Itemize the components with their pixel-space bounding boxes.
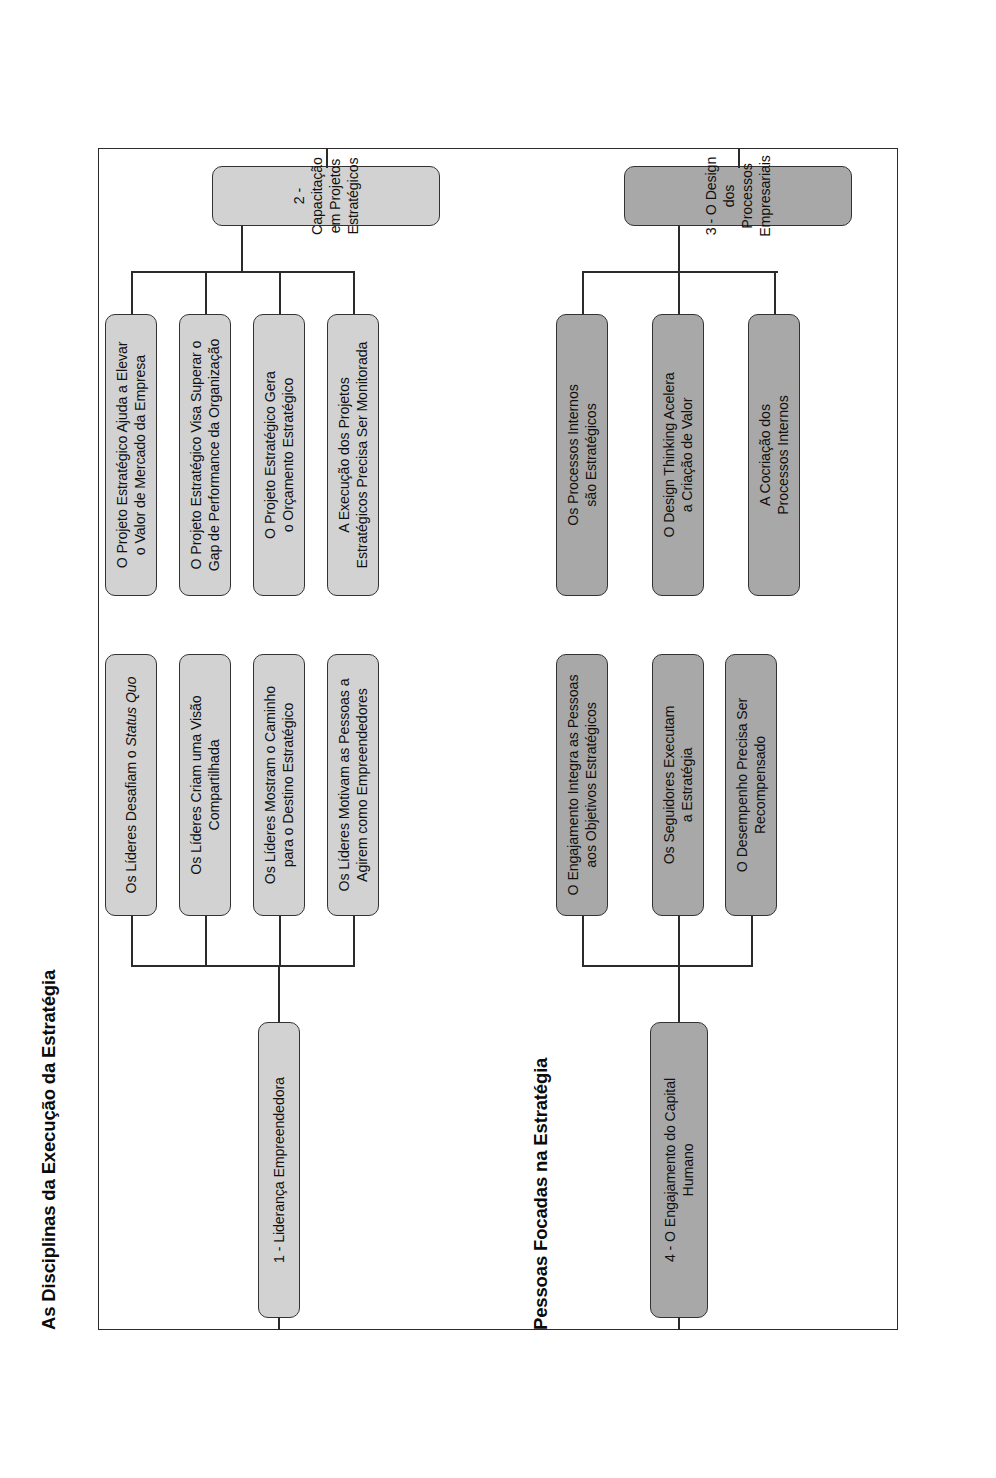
section-title-pessoas: Pessoas Focadas na Estratégia <box>530 1058 552 1330</box>
connector-projetos-2 <box>205 271 207 314</box>
node-processos-child-3[interactable]: A Cocriação dos Processos Internos <box>748 314 800 596</box>
node-processos-child-2[interactable]: O Design Thinking Acelera a Criação de V… <box>652 314 704 596</box>
node-lideranca-child-3-label: Os Líderes Mostram o Caminho para o Dest… <box>261 686 297 884</box>
node-lideranca-child-4-label: Os Líderes Motivam as Pessoas a Agirem c… <box>335 679 371 892</box>
connector-projetos-4 <box>353 271 355 314</box>
node-processos-child-1-label: Os Processos Internos são Estratégicos <box>564 384 600 525</box>
node-projetos-child-2-label: O Projeto Estratégico Visa Superar o Gap… <box>187 339 223 572</box>
connector-root1-stem <box>278 966 280 1022</box>
node-root-2-capacitacao[interactable]: 2 - Capacitação em Projetos Estratégicos <box>212 166 440 226</box>
connector-engajamento-1 <box>582 915 584 967</box>
node-lideranca-child-2[interactable]: Os Líderes Criam uma Visão Compartilhada <box>179 654 231 916</box>
connector-frame-root1 <box>278 1317 280 1329</box>
connector-lideranca-bus <box>131 965 355 967</box>
node-projetos-child-1[interactable]: O Projeto Estratégico Ajuda a Elevar o V… <box>105 314 157 596</box>
connector-frame-root3 <box>738 148 740 168</box>
node-projetos-child-4[interactable]: A Execução dos Projetos Estratégicos Pre… <box>327 314 379 596</box>
connector-engajamento-bus <box>582 965 752 967</box>
node-root-2-label: 2 - Capacitação em Projetos Estratégicos <box>290 157 363 235</box>
connector-processos-3 <box>774 271 776 314</box>
node-engajamento-child-3-label: O Desempenho Precisa Ser Recompensado <box>733 698 769 872</box>
node-root-1-label: 1 - Liderança Empreendedora <box>270 1077 288 1263</box>
connector-lideranca-2 <box>205 915 207 967</box>
connector-engajamento-3 <box>751 915 753 967</box>
connector-projetos-1 <box>131 271 133 314</box>
connector-frame-root4 <box>678 1317 680 1329</box>
node-projetos-child-4-label: A Execução dos Projetos Estratégicos Pre… <box>335 342 371 569</box>
connector-root3-stem <box>678 225 680 273</box>
node-root-4-engajamento[interactable]: 4 - O Engajamento do Capital Humano <box>650 1022 708 1318</box>
node-projetos-child-2[interactable]: O Projeto Estratégico Visa Superar o Gap… <box>179 314 231 596</box>
node-processos-child-3-label: A Cocriação dos Processos Internos <box>756 395 792 515</box>
rotated-diagram-group: As Disciplinas da Execução da Estratégia… <box>0 0 996 1478</box>
node-processos-child-1[interactable]: Os Processos Internos são Estratégicos <box>556 314 608 596</box>
node-lideranca-child-4[interactable]: Os Líderes Motivam as Pessoas a Agirem c… <box>327 654 379 916</box>
connector-processos-1 <box>582 271 584 314</box>
connector-lideranca-3 <box>279 915 281 967</box>
node-lideranca-child-3[interactable]: Os Líderes Mostram o Caminho para o Dest… <box>253 654 305 916</box>
connector-projetos-bus <box>131 271 355 273</box>
node-projetos-child-3-label: O Projeto Estratégico Gera o Orçamento E… <box>261 371 297 539</box>
connector-processos-bus <box>582 271 778 273</box>
node-engajamento-child-1-label: O Engajamento Integra as Pessoas aos Obj… <box>564 675 600 896</box>
node-projetos-child-3[interactable]: O Projeto Estratégico Gera o Orçamento E… <box>253 314 305 596</box>
connector-frame-root2 <box>326 148 328 168</box>
connector-lideranca-4 <box>353 915 355 967</box>
node-lideranca-child-1[interactable]: Os Líderes Desafiam o Status Quo <box>105 654 157 916</box>
node-engajamento-child-1[interactable]: O Engajamento Integra as Pessoas aos Obj… <box>556 654 608 916</box>
node-lideranca-child-2-label: Os Líderes Criam uma Visão Compartilhada <box>187 695 223 874</box>
node-lideranca-child-1-label: Os Líderes Desafiam o Status Quo <box>122 677 140 894</box>
connector-lideranca-1 <box>131 915 133 967</box>
node-root-3-design-processos[interactable]: 3 - O Design dos Processos Empresariais <box>624 166 852 226</box>
connector-processos-2 <box>678 271 680 314</box>
connector-engajamento-2 <box>678 915 680 967</box>
node-engajamento-child-2-label: Os Seguidores Executam a Estratégia <box>660 706 696 865</box>
node-processos-child-2-label: O Design Thinking Acelera a Criação de V… <box>660 372 696 537</box>
connector-projetos-3 <box>279 271 281 314</box>
node-root-1-lideranca-empreendedora[interactable]: 1 - Liderança Empreendedora <box>258 1022 300 1318</box>
node-engajamento-child-3[interactable]: O Desempenho Precisa Ser Recompensado <box>725 654 777 916</box>
connector-root2-stem <box>241 225 243 273</box>
connector-root4-stem <box>678 966 680 1022</box>
node-root-4-label: 4 - O Engajamento do Capital Humano <box>661 1078 697 1262</box>
diagram-canvas: As Disciplinas da Execução da Estratégia… <box>0 0 996 1478</box>
node-projetos-child-1-label: O Projeto Estratégico Ajuda a Elevar o V… <box>113 342 149 569</box>
node-engajamento-child-2[interactable]: Os Seguidores Executam a Estratégia <box>652 654 704 916</box>
section-title-disciplinas: As Disciplinas da Execução da Estratégia <box>38 970 60 1330</box>
